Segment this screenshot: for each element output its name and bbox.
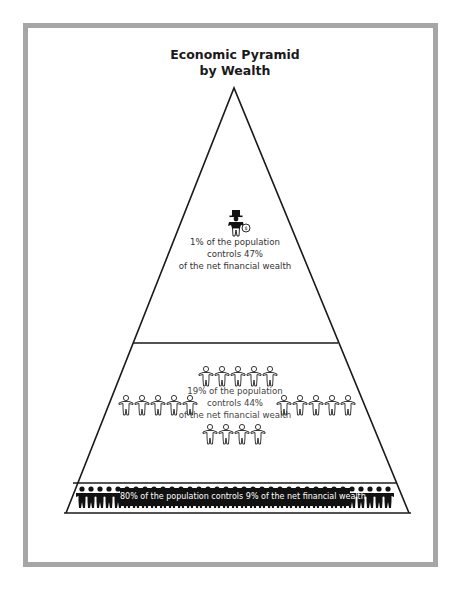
svg-text:$: $: [244, 225, 247, 231]
wealthy-man-with-money-bag-icon: $: [228, 210, 250, 236]
middle-tier-line-1: 19% of the population: [165, 385, 305, 397]
pyramid-outline: [64, 88, 411, 513]
top-tier-line-3: of the net financial wealth: [165, 260, 305, 272]
top-tier-label: 1% of the population controls 47% of the…: [165, 236, 305, 272]
figure-row-top: [199, 366, 277, 386]
middle-tier-line-3: of the net financial wealth: [165, 409, 305, 421]
figure-row-bottom: [203, 424, 265, 444]
middle-tier-line-2: controls 44%: [165, 397, 305, 409]
pyramid-sides: [66, 88, 409, 513]
top-tier-line-1: 1% of the population: [165, 236, 305, 248]
top-tier-line-2: controls 47%: [165, 248, 305, 260]
bottom-tier-label: 80% of the population controls 9% of the…: [120, 491, 350, 503]
middle-tier-label: 19% of the population controls 44% of th…: [165, 385, 305, 421]
